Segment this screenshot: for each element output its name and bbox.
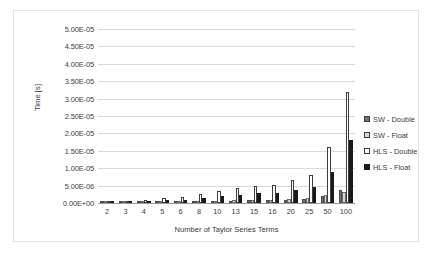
bar-group [318, 29, 336, 203]
y-axis-tick-label: 0.00E+00 [63, 199, 94, 208]
x-axis-tick-label: 5 [153, 207, 171, 216]
chart-frame: Time [s] 5.00E-054.50E-054.00E-053.50E-0… [13, 10, 419, 242]
x-axis-tick-label: 100 [337, 207, 355, 216]
legend-label: HLS - Double [373, 147, 417, 156]
bar [239, 195, 242, 203]
y-axis-tick-label: 1.00E-05 [65, 164, 94, 173]
x-axis-line [98, 203, 355, 204]
x-axis-tick-label: 10 [208, 207, 226, 216]
bar [331, 172, 334, 203]
bar [313, 187, 316, 203]
x-axis-tick-label: 20 [282, 207, 300, 216]
legend-item[interactable]: SW - Double [364, 111, 435, 127]
legend-label: SW - Float [373, 131, 408, 140]
x-axis-tick-label: 15 [245, 207, 263, 216]
y-axis-tick-label: 5.00E-06 [65, 181, 94, 190]
x-axis-tick-label: 50 [318, 207, 336, 216]
bar-group [171, 29, 189, 203]
y-axis-tick-labels: 5.00E-054.50E-054.00E-053.50E-053.00E-05… [48, 29, 94, 203]
x-axis-tick-label: 16 [263, 207, 281, 216]
y-axis-title: Time [s] [33, 63, 42, 133]
chart-legend: SW - DoubleSW - FloatHLS - DoubleHLS - F… [364, 111, 435, 175]
x-axis-tick-label: 13 [227, 207, 245, 216]
x-axis-tick-label: 25 [300, 207, 318, 216]
x-axis-tick-label: 4 [135, 207, 153, 216]
x-axis-tick-labels: 23456810131516202550100 [98, 207, 355, 216]
y-axis-tick-label: 5.00E-05 [65, 25, 94, 34]
bar [221, 196, 224, 203]
legend-swatch-icon [364, 116, 370, 122]
bar-groups [98, 29, 355, 203]
bar-group [208, 29, 226, 203]
legend-label: HLS - Float [373, 163, 410, 172]
y-axis-tick-label: 2.00E-05 [65, 129, 94, 138]
bar-group [190, 29, 208, 203]
legend-swatch-icon [364, 164, 370, 170]
plot-area [98, 29, 355, 203]
x-axis-tick-label: 2 [98, 207, 116, 216]
bar-group [300, 29, 318, 203]
y-axis-tick-label: 3.00E-05 [65, 94, 94, 103]
legend-swatch-icon [364, 132, 370, 138]
y-axis-tick-label: 3.50E-05 [65, 77, 94, 86]
bar [257, 193, 260, 203]
y-axis-tick-label: 2.50E-05 [65, 112, 94, 121]
x-axis-tick-label: 6 [171, 207, 189, 216]
bar [294, 190, 297, 203]
bar-group [116, 29, 134, 203]
bar [276, 193, 279, 203]
legend-label: SW - Double [373, 115, 415, 124]
bar-group [245, 29, 263, 203]
legend-item[interactable]: HLS - Double [364, 143, 435, 159]
bar-group [98, 29, 116, 203]
legend-swatch-icon [364, 148, 370, 154]
y-axis-tick-label: 4.50E-05 [65, 42, 94, 51]
bar-group [337, 29, 355, 203]
y-axis-tick-label: 4.00E-05 [65, 59, 94, 68]
x-axis-title: Number of Taylor Series Terms [98, 225, 355, 234]
legend-item[interactable]: SW - Float [364, 127, 435, 143]
y-axis-tick-label: 1.50E-05 [65, 146, 94, 155]
bar-group [227, 29, 245, 203]
legend-item[interactable]: HLS - Float [364, 159, 435, 175]
x-axis-tick-label: 8 [190, 207, 208, 216]
bar-group [135, 29, 153, 203]
x-axis-tick-label: 3 [116, 207, 134, 216]
bar-group [153, 29, 171, 203]
bar-group [263, 29, 281, 203]
bar [349, 140, 352, 203]
bar-group [282, 29, 300, 203]
